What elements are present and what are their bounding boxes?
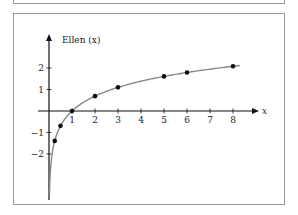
data-point [52,139,57,144]
x-tick-label: 3 [115,115,121,125]
data-point [116,85,121,90]
x-tick-label: 5 [161,115,167,125]
x-axis-label: x [262,106,267,116]
data-point [185,70,190,75]
y-tick-label: −2 [31,149,44,159]
x-tick-label: 8 [230,115,236,125]
y-tick-label: −1 [31,128,44,138]
y-tick-label: 2 [38,63,44,73]
x-tick-label: 7 [207,115,213,125]
ln-curve [49,66,239,196]
y-axis-label: Ellen (x) [62,35,100,45]
data-point [93,94,98,99]
x-tick-label: 6 [184,115,190,125]
data-point [231,64,236,69]
x-tick-label: 2 [92,115,98,125]
data-points [52,64,235,143]
data-point [58,124,63,129]
data-point [162,74,167,79]
y-axis-arrow-icon [46,34,52,41]
x-tick-label: 1 [69,115,75,125]
data-point [70,109,75,114]
y-tick-label: 1 [38,85,44,95]
log-chart: 12345678−2−112 Ellen (x) x [0,0,298,215]
x-tick-label: 4 [138,115,144,125]
x-axis-arrow-icon [252,108,259,114]
